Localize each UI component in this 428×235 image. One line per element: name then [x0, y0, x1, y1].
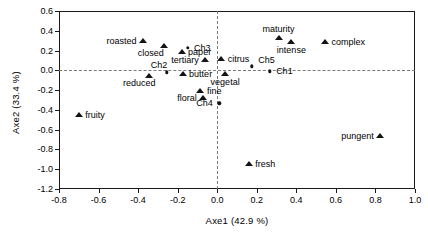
- y-tick-label: 0.6: [21, 6, 53, 16]
- horizontal-zero-reference-line: [59, 70, 415, 71]
- vertical-zero-reference-line: [217, 11, 218, 189]
- descriptor-point-marker: [75, 112, 83, 117]
- x-tick-mark: [178, 189, 179, 193]
- y-tick-mark: [55, 110, 59, 111]
- x-tick-label: -0.8: [51, 195, 67, 205]
- descriptor-point-marker: [245, 161, 253, 166]
- y-tick-label: -1.2: [21, 184, 53, 194]
- descriptor-point-marker: [217, 56, 225, 61]
- descriptor-point-marker: [275, 35, 283, 40]
- y-tick-mark: [55, 169, 59, 170]
- descriptor-point-marker: [321, 39, 329, 44]
- y-tick-mark: [55, 149, 59, 150]
- x-tick-mark: [257, 189, 258, 193]
- x-tick-label: -0.4: [130, 195, 146, 205]
- x-tick-label: -0.2: [170, 195, 186, 205]
- x-tick-label: 0.4: [290, 195, 303, 205]
- y-tick-label: 0.4: [21, 26, 53, 36]
- x-tick-mark: [59, 189, 60, 193]
- x-tick-label: 0.8: [369, 195, 382, 205]
- x-tick-mark: [296, 189, 297, 193]
- point-label: pungent: [341, 131, 374, 140]
- descriptor-point-marker: [376, 133, 384, 138]
- y-tick-mark: [55, 11, 59, 12]
- point-label: fruity: [85, 111, 105, 120]
- y-tick-mark: [55, 31, 59, 32]
- point-label: Ch1: [276, 67, 293, 76]
- point-label: Ch3: [194, 44, 211, 53]
- descriptor-point-marker: [139, 38, 147, 43]
- x-tick-label: 0.2: [251, 195, 264, 205]
- descriptor-point-marker: [178, 49, 186, 54]
- x-tick-mark: [336, 189, 337, 193]
- point-label: floral: [177, 94, 197, 103]
- y-axis-title: Axe2 (33.4 %): [10, 71, 21, 134]
- y-tick-label: 0.2: [21, 46, 53, 56]
- point-label: tertiary: [171, 55, 199, 64]
- x-tick-mark: [375, 189, 376, 193]
- x-tick-label: -0.6: [91, 195, 107, 205]
- y-tick-mark: [55, 51, 59, 52]
- point-label: Ch2: [151, 61, 168, 70]
- y-tick-label: -0.2: [21, 85, 53, 95]
- x-axis-title: Axe1 (42.9 %): [59, 215, 415, 226]
- y-tick-label: -0.4: [21, 105, 53, 115]
- point-label: fresh: [255, 160, 275, 169]
- point-label: closed: [138, 48, 164, 57]
- y-tick-label: -1.0: [21, 164, 53, 174]
- x-tick-label: 1.0: [409, 195, 422, 205]
- scatter-plot-figure: -0.8-0.6-0.4-0.20.00.20.40.60.81.0 0.60.…: [0, 0, 428, 235]
- y-tick-label: 0.0: [21, 65, 53, 75]
- point-label: reduced: [123, 78, 156, 87]
- descriptor-point-marker: [201, 57, 209, 62]
- x-tick-mark: [138, 189, 139, 193]
- point-label: roasted: [107, 37, 137, 46]
- descriptor-point-marker: [196, 88, 204, 93]
- point-label: butter: [189, 69, 212, 78]
- point-label: Ch5: [258, 56, 275, 65]
- point-label: complex: [332, 38, 366, 47]
- x-tick-mark: [99, 189, 100, 193]
- y-tick-mark: [55, 130, 59, 131]
- descriptor-point-marker: [179, 71, 187, 76]
- y-tick-mark: [55, 90, 59, 91]
- y-tick-label: -0.8: [21, 144, 53, 154]
- descriptor-point-marker: [287, 39, 295, 44]
- point-label: citrus: [228, 55, 250, 64]
- x-tick-label: 0.0: [211, 195, 224, 205]
- point-label: Ch4: [196, 99, 213, 108]
- point-label: maturity: [263, 24, 295, 33]
- x-tick-label: 0.6: [330, 195, 343, 205]
- y-tick-mark: [55, 189, 59, 190]
- y-tick-mark: [55, 70, 59, 71]
- x-tick-mark: [415, 189, 416, 193]
- descriptor-point-marker: [221, 71, 229, 76]
- y-tick-label: -0.6: [21, 125, 53, 135]
- point-label: fine: [207, 86, 222, 95]
- point-label: intense: [277, 46, 306, 55]
- x-tick-mark: [217, 189, 218, 193]
